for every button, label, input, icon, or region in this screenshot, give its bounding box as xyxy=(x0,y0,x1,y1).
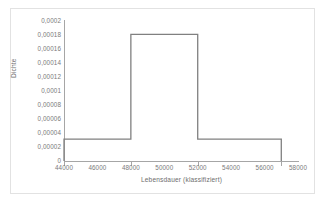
chart-frame xyxy=(10,8,315,194)
